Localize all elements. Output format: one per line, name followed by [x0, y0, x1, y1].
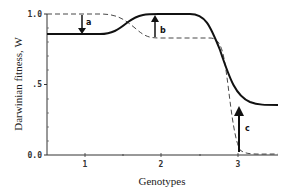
x-tick-label: 3 [236, 160, 241, 169]
x-axis-title: Genotypes [138, 175, 185, 187]
x-tick-label: 1 [83, 160, 88, 169]
x-tick-label: 2 [159, 160, 164, 169]
annotation-b: b [160, 26, 166, 35]
y-tick-label: .5 [32, 80, 42, 89]
annotation-a: a [86, 18, 91, 27]
y-tick-label: 1.0 [28, 10, 43, 19]
fitness-chart: 1.0 .5 0.0 1 2 3 Genotypes Darwinian fit… [0, 0, 289, 193]
annotation-c: c [245, 124, 250, 133]
dashed-series-line [47, 14, 278, 154]
y-tick-label: 0.0 [28, 151, 43, 160]
y-axis-title: Darwinian fitness, W [12, 37, 24, 131]
